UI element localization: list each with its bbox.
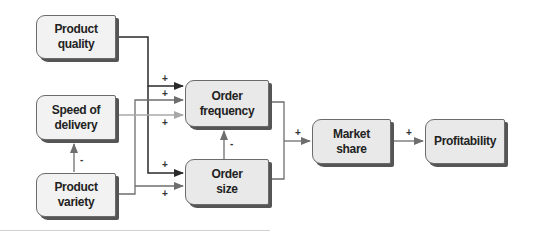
sign-variety-delivery: - [80, 154, 83, 165]
sign-size-frequency: - [230, 138, 233, 149]
edge-frequency-market [271, 102, 284, 141]
node-label: Market share [333, 127, 370, 157]
node-speed-of-delivery: Speed of delivery [36, 95, 116, 140]
sign-quality-size: + [162, 159, 168, 170]
sign-quality-frequency: + [162, 73, 168, 84]
node-market-share: Market share [312, 119, 391, 164]
sign-market-profit: + [406, 127, 412, 138]
sign-delivery-frequency: + [162, 117, 168, 128]
sign-to-market: + [295, 127, 301, 138]
edge-variety-frequency [118, 100, 183, 194]
node-label: Order frequency [200, 89, 255, 119]
node-label: Product quality [54, 22, 97, 52]
edge-size-market [271, 141, 284, 179]
sign-variety-frequency: + [162, 88, 168, 99]
node-label: Order size [211, 167, 242, 197]
node-label: Profitability [434, 134, 496, 149]
node-product-quality: Product quality [36, 15, 116, 59]
node-label: Speed of delivery [52, 103, 100, 133]
sign-variety-size: + [162, 188, 168, 199]
node-order-frequency: Order frequency [185, 80, 269, 127]
bottom-rule [0, 230, 270, 231]
node-label: Product variety [54, 180, 97, 210]
node-order-size: Order size [185, 159, 269, 205]
edge-quality-frequency [118, 37, 183, 86]
node-profitability: Profitability [425, 119, 505, 164]
node-product-variety: Product variety [36, 173, 116, 217]
